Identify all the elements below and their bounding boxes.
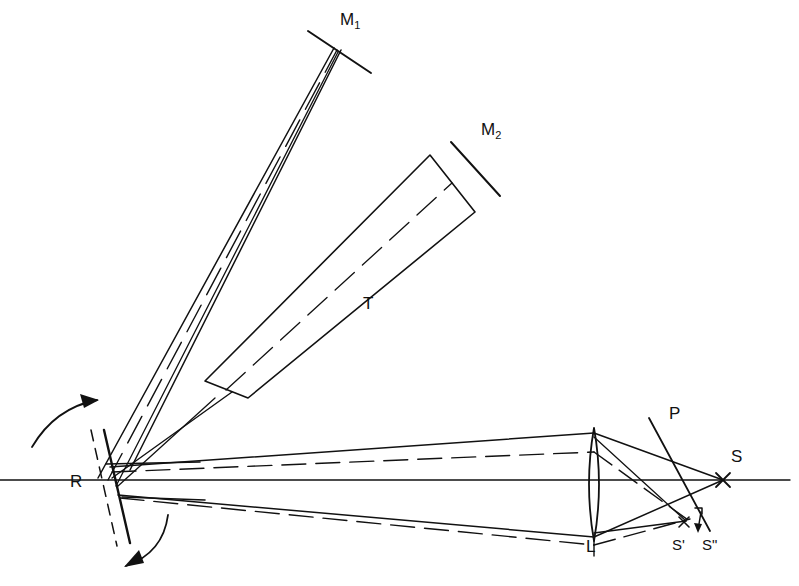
label-plate-p: P xyxy=(669,404,680,424)
tube-body xyxy=(205,155,475,398)
ray-r-to-m1-dashed-center xyxy=(108,50,337,480)
rotation-arrow-bottom-head xyxy=(124,550,144,567)
ray-r-to-tube-lower xyxy=(118,398,215,486)
ray-stub-upper xyxy=(106,462,200,464)
lens-body xyxy=(589,428,599,541)
tube-axis-dashed xyxy=(226,183,452,390)
label-tube-t: T xyxy=(363,294,373,314)
ray-lower-solid-r-to-lens xyxy=(118,495,594,537)
label-s-prime: S' xyxy=(672,536,685,553)
label-lens-l: L xyxy=(586,537,595,557)
ray-lower-converge-solid xyxy=(594,480,723,537)
label-m1: M1 xyxy=(340,10,360,31)
label-source-s: S xyxy=(731,447,742,467)
ray-lower-dashed-r-to-lens xyxy=(120,498,594,545)
label-rotor-r: R xyxy=(70,472,82,492)
ray-upper-converge-solid xyxy=(594,433,723,480)
optical-diagram xyxy=(0,0,799,586)
label-s-double-prime: S" xyxy=(702,536,717,553)
ray-r-to-m1-right-edge xyxy=(130,50,341,470)
rotating-mirror-dashed xyxy=(91,430,117,546)
label-m2-subscript: 2 xyxy=(495,129,501,141)
label-m2: M2 xyxy=(481,120,501,141)
rotation-arrow-top-head xyxy=(80,394,99,408)
label-m1-text: M xyxy=(340,10,354,29)
mirror-m2-tick xyxy=(451,142,500,196)
rotation-arrow-top xyxy=(32,400,97,447)
ray-converge-to-sprime-lower xyxy=(594,521,686,533)
label-m2-text: M xyxy=(481,120,495,139)
label-m1-subscript: 1 xyxy=(354,19,360,31)
ray-r-to-m1-inner xyxy=(116,52,338,486)
marker-S-double-prime xyxy=(694,508,702,533)
rotating-mirror-solid xyxy=(104,430,130,543)
figure-canvas: M1 M2 T R L P S S' S" xyxy=(0,0,799,586)
ray-r-to-m1-left-edge xyxy=(98,48,334,478)
